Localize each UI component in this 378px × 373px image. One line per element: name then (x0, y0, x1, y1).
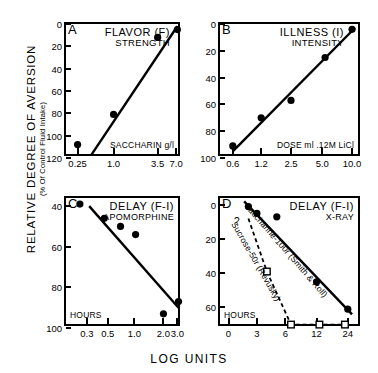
pc-data-point (132, 231, 139, 238)
pd-xtick-label: 6 (283, 328, 288, 339)
panel-d: D DELAY (F-I) X-RAY HOURS 02040600361224… (218, 196, 360, 326)
pb-data-point (258, 114, 265, 121)
panel-b-plot: 0204060801000.61.22.55.010.0 (220, 24, 358, 154)
pd-xtick-label: 0 (226, 328, 231, 339)
pb-ytick-label: 100 (200, 153, 216, 164)
figure-container: RELATIVE DEGREE OF AVERSION (% Of Contro… (0, 0, 378, 373)
pd-xtick-label: 12 (311, 328, 322, 339)
pc-data-point (101, 215, 108, 222)
pc-ytick-label: 80 (51, 282, 62, 293)
pa-xtick-label: 0.25 (68, 158, 87, 169)
pd-ytick-label: 20 (205, 234, 216, 245)
pd-ytick-label: 40 (205, 268, 216, 279)
panel-d-plot: 02040600361224Saccharine-100r (Smith & R… (220, 198, 358, 324)
pc-ytick-label: 60 (51, 241, 62, 252)
pa-ytick-label: 120 (46, 153, 62, 164)
pc-ytick-label: 40 (51, 201, 62, 212)
pb-data-point (321, 54, 328, 61)
pc-data-point (76, 200, 83, 207)
pa-ytick-label: 0 (57, 19, 62, 30)
pc-xtick-label: 1.0 (128, 328, 141, 339)
pa-ytick-label: 20 (51, 41, 62, 52)
pa-fit-line (92, 26, 178, 154)
panel-a: A FLAVOR (F) STRENGTH SACCHARIN g/l 0204… (64, 22, 180, 156)
pc-xtick-label: 2.0 (157, 328, 170, 339)
pd-data-point (273, 213, 280, 220)
pb-ytick-label: 20 (205, 45, 216, 56)
pb-ytick-label: 0 (211, 19, 216, 30)
pa-data-point (154, 34, 161, 41)
pb-data-overlay (220, 24, 362, 158)
y-axis-label-text: RELATIVE DEGREE OF AVERSION (25, 45, 37, 253)
pb-fit-line (233, 28, 355, 151)
pd-data-point-square (316, 321, 323, 328)
pa-ytick-label: 100 (46, 130, 62, 141)
pd-xtick-label: 24 (343, 328, 354, 339)
y-axis-sublabel-text: (% Of Control Fluid Intake) (38, 29, 47, 269)
pb-xtick-label: 1.2 (255, 158, 268, 169)
panel-c-plot: 4060801000.30.51.02.03.0 (66, 198, 178, 324)
pb-xtick-label: 5.0 (316, 158, 329, 169)
pb-data-point (229, 142, 236, 149)
pa-data-point (110, 111, 117, 118)
pc-data-point (175, 298, 182, 305)
pa-data-overlay (66, 24, 182, 158)
y-axis-label: RELATIVE DEGREE OF AVERSION (% Of Contro… (25, 29, 47, 269)
pb-xtick-label: 10.0 (343, 158, 362, 169)
pa-xtick-label: 1.0 (107, 158, 120, 169)
panel-d-question-mark-annotation: ? (234, 216, 240, 227)
pa-ytick-label: 40 (51, 63, 62, 74)
pc-data-overlay (66, 198, 182, 328)
panel-a-plot: 0204060801001200.251.03.57.0 (66, 24, 178, 154)
pc-ytick-label: 100 (46, 323, 62, 334)
pb-data-point (287, 97, 294, 104)
pc-xtick-label: 0.5 (101, 328, 114, 339)
pd-data-point-square (342, 321, 349, 328)
x-axis-label: LOG UNITS (0, 352, 378, 366)
pa-ytick-label: 80 (51, 108, 62, 119)
pb-xtick-label: 0.6 (226, 158, 239, 169)
pa-data-point (174, 26, 181, 33)
pb-data-point (348, 26, 355, 33)
pa-xtick-label: 3.5 (151, 158, 164, 169)
pb-xtick-label: 2.5 (284, 158, 297, 169)
pb-ytick-label: 40 (205, 72, 216, 83)
pc-data-point (117, 223, 124, 230)
pd-data-point (344, 306, 351, 313)
pb-ytick-label: 60 (205, 99, 216, 110)
pb-ytick-label: 80 (205, 126, 216, 137)
pc-xtick-label: 3.0 (171, 328, 184, 339)
pd-xtick-label: 3 (254, 328, 259, 339)
pa-data-point (74, 141, 81, 148)
pd-data-point-square (288, 321, 295, 328)
pa-xtick-label: 7.0 (170, 158, 183, 169)
pa-ytick-label: 60 (51, 86, 62, 97)
panel-b: B ILLNESS (I) INTENSITY DOSE ml .12M LiC… (218, 22, 360, 156)
panel-c: C DELAY (F-I) APOMORPHINE HOURS 40608010… (64, 196, 180, 326)
pc-data-point (160, 310, 167, 317)
pd-ytick-label: 0 (211, 199, 216, 210)
pd-ytick-label: 60 (205, 302, 216, 313)
pc-xtick-label: 0.3 (80, 328, 93, 339)
